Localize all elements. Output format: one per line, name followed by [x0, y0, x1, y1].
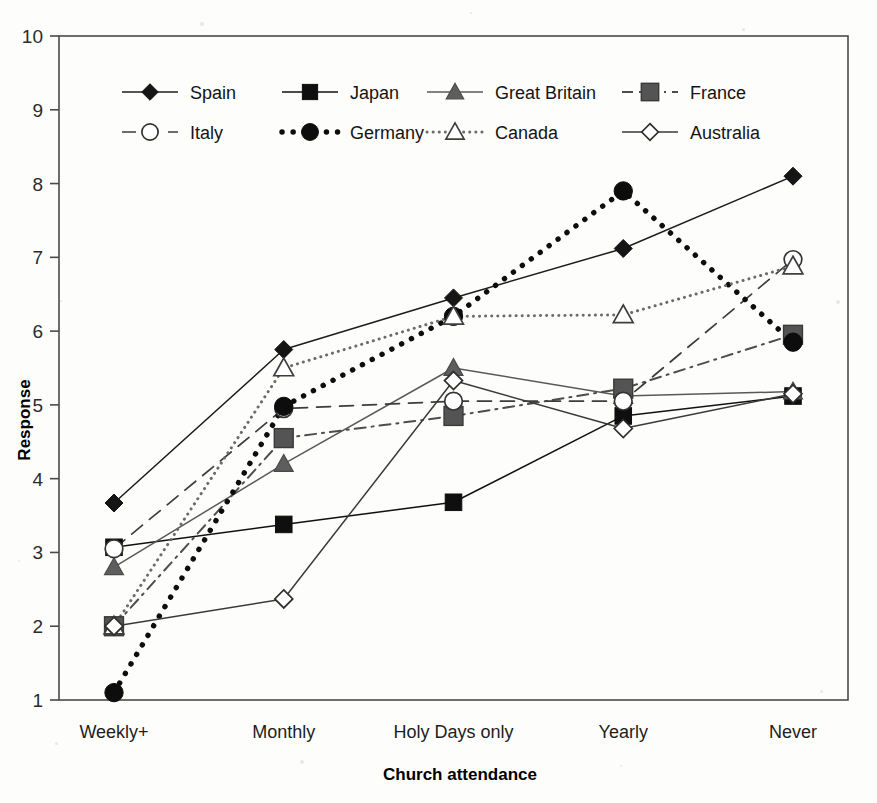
data-point-marker [275, 590, 293, 608]
x-tick-label-weekly: Weekly+ [79, 722, 148, 742]
data-point-marker [275, 516, 292, 533]
series-markers [104, 167, 803, 702]
y-tick-label: 4 [32, 469, 43, 490]
y-tick-label: 10 [22, 26, 43, 47]
data-point-marker [614, 239, 632, 257]
data-point-marker [142, 84, 159, 101]
legend-label: Japan [350, 83, 399, 103]
data-point-marker [275, 397, 293, 415]
y-tick-label: 3 [32, 542, 43, 563]
data-point-marker [446, 123, 464, 139]
y-tick-label: 7 [32, 247, 43, 268]
y-tick-label: 9 [32, 100, 43, 121]
y-axis-group: 12345678910 [22, 26, 59, 711]
x-tick-label-monthly: Monthly [252, 722, 315, 742]
data-point-marker [105, 540, 123, 558]
data-point-marker [445, 392, 463, 410]
legend-item-italy[interactable]: Italy [122, 123, 223, 143]
y-tick-label: 6 [32, 321, 43, 342]
legend-item-spain[interactable]: Spain [122, 83, 236, 103]
legend-group: SpainJapanGreat BritainFranceItalyGerman… [122, 83, 761, 143]
data-point-marker [274, 454, 293, 471]
data-point-marker [445, 289, 463, 307]
data-point-marker [641, 83, 658, 100]
series-lines [114, 176, 793, 692]
legend-item-france[interactable]: France [622, 83, 746, 103]
x-tick-label-never: Never [769, 722, 817, 742]
series-markers-germany [105, 182, 802, 702]
x-axis-group: Weekly+MonthlyHoly Days onlyYearlyNever [79, 722, 817, 742]
y-tick-label: 1 [32, 690, 43, 711]
legend-label: Germany [350, 123, 424, 143]
line-chart: 12345678910 Weekly+MonthlyHoly Days only… [0, 0, 877, 803]
data-point-marker [142, 124, 158, 140]
data-point-marker [613, 305, 633, 323]
data-point-marker [105, 558, 124, 575]
y-tick-label: 2 [32, 616, 43, 637]
legend-label: Great Britain [495, 83, 596, 103]
y-tick-label: 8 [32, 174, 43, 195]
x-tick-label-holy-days-only: Holy Days only [393, 722, 513, 742]
legend-label: France [690, 83, 746, 103]
legend-item-canada[interactable]: Canada [427, 123, 559, 143]
series-group [104, 167, 803, 702]
scan-speck [742, 28, 745, 31]
scan-speck [470, 12, 472, 14]
data-point-marker [274, 429, 293, 448]
data-point-marker [784, 167, 802, 185]
series-markers-great-britain [105, 359, 803, 575]
legend-item-japan[interactable]: Japan [282, 83, 399, 103]
data-point-marker [784, 333, 802, 351]
legend-item-australia[interactable]: Australia [622, 123, 761, 143]
scan-speck [300, 760, 304, 764]
legend-item-great-britain[interactable]: Great Britain [427, 83, 596, 103]
x-tick-label-yearly: Yearly [599, 722, 648, 742]
series-line-germany [114, 191, 793, 693]
data-point-marker [614, 392, 632, 410]
y-tick-label: 5 [32, 395, 43, 416]
legend-label: Italy [190, 123, 223, 143]
scan-speck [200, 22, 204, 26]
scan-speck [620, 765, 622, 767]
legend-label: Australia [690, 123, 761, 143]
data-point-marker [445, 494, 462, 511]
data-point-marker [105, 683, 123, 701]
data-point-marker [302, 84, 317, 99]
x-axis-title: Church attendance [383, 765, 537, 784]
legend-label: Spain [190, 83, 236, 103]
series-line-spain [114, 176, 793, 503]
data-point-marker [274, 358, 294, 376]
chart-container: 12345678910 Weekly+MonthlyHoly Days only… [0, 0, 877, 803]
data-point-marker [302, 124, 319, 141]
y-axis-title: Response [15, 379, 34, 460]
series-markers-canada [104, 256, 803, 634]
scan-speck [55, 742, 58, 745]
scan-speck [836, 300, 840, 304]
data-point-marker [642, 124, 659, 141]
scan-speck [18, 560, 20, 562]
scan-speck [60, 300, 62, 302]
scan-speck [820, 690, 823, 693]
data-point-marker [614, 182, 632, 200]
legend-label: Canada [495, 123, 559, 143]
data-point-marker [446, 83, 463, 98]
legend-item-germany[interactable]: Germany [282, 123, 424, 143]
